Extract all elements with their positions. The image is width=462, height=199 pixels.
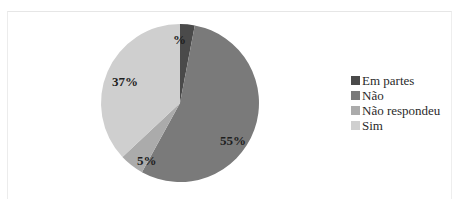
label-em-partes: % [173, 32, 186, 47]
legend-swatch [351, 76, 360, 85]
label-nao: 55% [220, 133, 246, 148]
legend-swatch [351, 106, 360, 115]
legend-item-em-partes: Em partes [351, 73, 440, 88]
legend-label: Não [362, 88, 384, 103]
pie-slices [101, 24, 259, 182]
legend-item-nao: Não [351, 88, 440, 103]
label-nao-respondeu: 5% [137, 153, 157, 168]
legend-swatch [351, 121, 360, 130]
legend-item-sim: Sim [351, 118, 440, 133]
label-sim: 37% [112, 74, 138, 89]
chart-legend: Em partes Não Não respondeu Sim [351, 73, 440, 133]
legend-label: Não respondeu [362, 103, 440, 118]
legend-label: Sim [362, 118, 383, 133]
legend-item-nao-respondeu: Não respondeu [351, 103, 440, 118]
legend-label: Em partes [362, 73, 414, 88]
legend-swatch [351, 91, 360, 100]
